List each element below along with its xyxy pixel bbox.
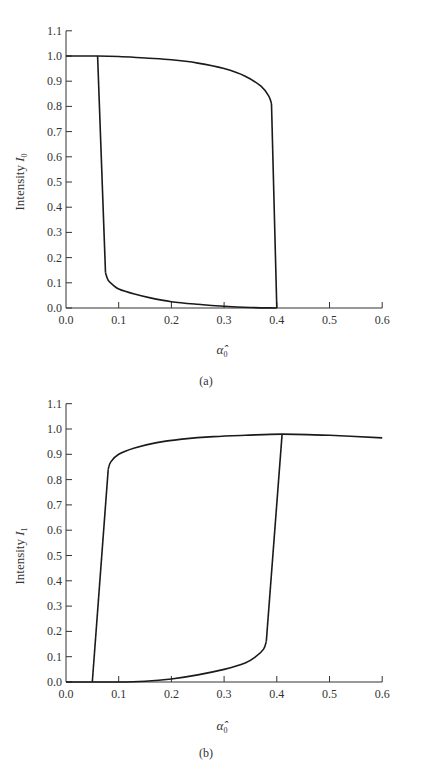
y-tick-label: 0.2	[47, 624, 62, 638]
y-tick-label: 0.8	[47, 99, 62, 113]
x-tick-label: 0.3	[217, 313, 232, 327]
y-tick-label: 0.6	[47, 150, 62, 164]
y-tick-label: 0.9	[47, 447, 62, 461]
y-tick-label: 0.7	[47, 125, 62, 139]
curve-left-jump	[92, 470, 108, 683]
x-tick-label: 0.2	[164, 313, 179, 327]
y-tick-label: 1.1	[47, 397, 62, 411]
x-tick-label: 0.4	[269, 687, 284, 701]
curve-lower-branch	[66, 642, 266, 683]
curve-right-jump	[266, 434, 282, 641]
x-tick-label: 0.2	[164, 687, 179, 701]
x-tick-label: 0.6	[375, 313, 390, 327]
y-tick-label: 1.0	[47, 49, 62, 63]
y-tick-label: 0.8	[47, 473, 62, 487]
curve-downward-jump	[98, 56, 106, 273]
y-axis-title-a: Intensity I0	[12, 153, 29, 210]
chart-panel-b: 0.00.10.20.30.40.50.60.00.10.20.30.40.50…	[12, 397, 390, 760]
y-tick-label: 0.4	[47, 574, 62, 588]
y-tick-label: 0.5	[47, 549, 62, 563]
y-tick-label: 0.1	[47, 650, 62, 664]
x-tick-label: 0.4	[269, 313, 284, 327]
x-tick-label: 0.1	[111, 313, 126, 327]
x-tick-label: 0.1	[111, 687, 126, 701]
y-tick-label: 1.0	[47, 422, 62, 436]
x-tick-label: 0.5	[322, 687, 337, 701]
x-tick-label: 0.6	[375, 687, 390, 701]
caption-b: (b)	[199, 746, 213, 760]
x-tick-label: 0.0	[59, 687, 74, 701]
x-axis-title-a: α̂0	[217, 342, 229, 359]
curve-lower-branch	[106, 273, 277, 308]
curve-upper-branch	[108, 434, 382, 469]
caption-a: (a)	[199, 374, 212, 388]
curves-a	[66, 56, 277, 308]
y-tick-label: 0.9	[47, 74, 62, 88]
y-tick-label: 0.0	[47, 301, 62, 315]
chart-panel-a: 0.00.10.20.30.40.50.60.00.10.20.30.40.50…	[12, 24, 390, 388]
x-tick-label: 0.5	[322, 313, 337, 327]
x-axis-title-b: α̂0	[217, 718, 229, 735]
y-tick-label: 0.0	[47, 675, 62, 689]
y-tick-label: 1.1	[47, 24, 62, 38]
y-tick-label: 0.6	[47, 523, 62, 537]
y-tick-label: 0.3	[47, 225, 62, 239]
x-tick-label: 0.3	[217, 687, 232, 701]
y-tick-label: 0.5	[47, 175, 62, 189]
y-tick-label: 0.1	[47, 276, 62, 290]
y-tick-label: 0.4	[47, 200, 62, 214]
curve-upward-right-jump	[272, 104, 277, 308]
curve-upper-branch	[66, 56, 272, 104]
y-tick-label: 0.7	[47, 498, 62, 512]
figure: 0.00.10.20.30.40.50.60.00.10.20.30.40.50…	[0, 0, 422, 775]
curves-b	[66, 434, 382, 682]
y-tick-label: 0.3	[47, 599, 62, 613]
y-tick-label: 0.2	[47, 251, 62, 265]
x-tick-label: 0.0	[59, 313, 74, 327]
axes-b: 0.00.10.20.30.40.50.60.00.10.20.30.40.50…	[47, 397, 390, 701]
y-axis-title-b: Intensity I1	[12, 527, 29, 584]
